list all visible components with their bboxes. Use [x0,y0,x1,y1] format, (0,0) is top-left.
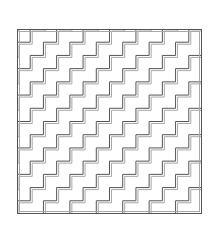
staircase-line [0,82,215,229]
staircase-line-shadow [0,84,215,229]
staircase-pattern-svg [0,0,215,229]
staircase-line [0,0,215,16]
staircase-lines [0,0,215,229]
staircase-line [0,0,215,148]
staircase-pattern-figure [0,0,215,229]
staircase-line [0,0,215,95]
staircase-line-shadow [0,216,215,229]
staircase-line-shadow [0,0,215,97]
staircase-line [0,214,215,229]
staircase-line-shadow [0,0,215,150]
staircase-line-shadow [0,0,215,18]
staircase-line-shadow [0,137,215,229]
staircase-line-shadow [0,0,215,124]
